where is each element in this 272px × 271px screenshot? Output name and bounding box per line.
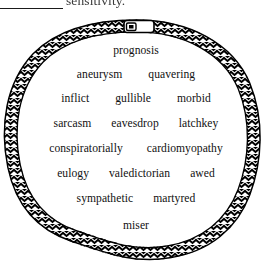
word-row: inflict gullible morbid xyxy=(0,92,272,105)
word-item: awed xyxy=(190,167,215,180)
word-item: gullible xyxy=(115,92,151,105)
word-item: aneurysm xyxy=(77,68,122,81)
word-row: sarcasm eavesdrop latchkey xyxy=(0,117,272,130)
word-row: sympathetic martyred xyxy=(0,192,272,205)
word-row: conspiratorially cardiomyopathy xyxy=(0,142,272,155)
word-item: martyred xyxy=(153,192,195,205)
word-item: sympathetic xyxy=(77,192,134,205)
word-item: eavesdrop xyxy=(111,117,158,130)
word-item: latchkey xyxy=(179,117,219,130)
word-item: quavering xyxy=(148,68,195,81)
word-row: miser xyxy=(0,219,272,232)
word-row: eulogy valedictorian awed xyxy=(0,167,272,180)
word-item: eulogy xyxy=(57,167,89,180)
word-item: conspiratorially xyxy=(49,142,123,155)
word-item: valedictorian xyxy=(109,167,170,180)
word-item: cardiomyopathy xyxy=(147,142,223,155)
word-field: prognosis aneurysm quavering inflict gul… xyxy=(0,0,272,271)
word-item: sarcasm xyxy=(54,117,92,130)
word-item: morbid xyxy=(177,92,211,105)
word-item: miser xyxy=(123,219,149,232)
worksheet-page: sensitivity. xyxy=(0,0,272,271)
word-item: inflict xyxy=(61,92,89,105)
word-item: prognosis xyxy=(113,44,159,57)
word-row: aneurysm quavering xyxy=(0,68,272,81)
word-row: prognosis xyxy=(0,44,272,57)
